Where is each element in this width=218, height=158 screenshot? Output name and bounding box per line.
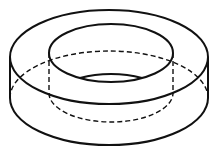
ring-diagram — [0, 0, 218, 158]
outer-bottom-front-arc — [10, 98, 208, 145]
inner-bottom-back-arc-visible — [80, 74, 142, 78]
inner-bottom-front-arc-hidden — [49, 93, 173, 122]
